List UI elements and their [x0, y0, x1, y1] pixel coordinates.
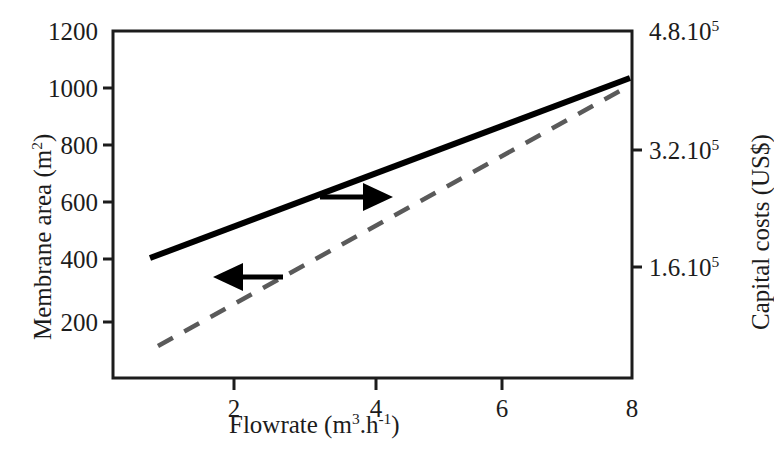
y2-tick-mantissa-3.2e5: 3.2.10 — [649, 137, 712, 164]
x-axis-title: Flowrate (m3.h-1) — [229, 412, 400, 437]
x-axis-title-superscript-3: 3 — [352, 410, 360, 427]
x-axis-title-base: Flowrate (m — [229, 411, 352, 438]
y2-tick-mantissa-4.8e5: 4.8.10 — [649, 18, 712, 45]
chart-figure: 1200 1000 800 600 400 200 2 4 6 8 4.8.10… — [0, 0, 774, 458]
y2-axis-title: Capital costs (US$) — [748, 134, 773, 330]
y2-tick-label-3.2e5: 3.2.105 — [649, 138, 719, 163]
y-axis-title-superscript: 2 — [28, 142, 45, 150]
y-tick-label-1000: 1000 — [20, 76, 98, 101]
y2-tick-label-4.8e5: 4.8.105 — [649, 19, 719, 44]
y2-tick-mantissa-1.6e5: 1.6.10 — [649, 254, 712, 281]
x-axis-title-tail: ) — [391, 411, 399, 438]
x-tick-label-8: 8 — [612, 396, 652, 421]
y-axis-title-tail: ) — [29, 134, 56, 142]
plot-canvas — [0, 0, 774, 458]
left-arrow-annotation — [213, 263, 283, 291]
y2-tick-exponent-1.6e5: 5 — [712, 253, 720, 270]
x-axis-title-mid: .h — [360, 411, 379, 438]
y-tick-label-1200: 1200 — [20, 19, 98, 44]
y-axis-title-base: Membrane area (m — [29, 150, 56, 340]
series-capital-costs-line — [150, 78, 630, 258]
series-membrane-area-line — [158, 87, 627, 346]
y2-tick-exponent-4.8e5: 5 — [712, 17, 720, 34]
y-axis-title: Membrane area (m2) — [30, 134, 55, 340]
y2-tick-exponent-3.2e5: 5 — [712, 136, 720, 153]
x-axis-title-superscript-minus1: -1 — [378, 410, 391, 427]
y2-tick-label-1.6e5: 1.6.105 — [649, 255, 719, 280]
x-axis-ticks — [234, 378, 502, 390]
x-tick-label-6: 6 — [482, 396, 522, 421]
